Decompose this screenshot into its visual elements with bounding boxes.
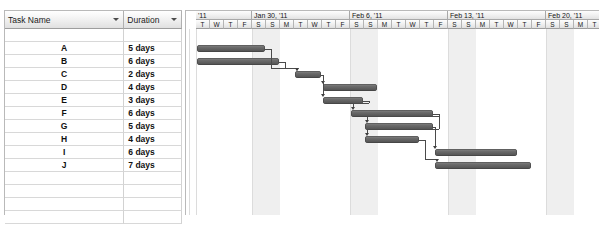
table-row[interactable]: J7 days	[5, 159, 182, 172]
cell-task-name[interactable]: H	[5, 133, 124, 146]
table-row[interactable]	[5, 198, 182, 211]
task-table: Task Name Duration A5 daysB6 daysC2 days…	[4, 10, 182, 215]
table-row[interactable]: I6 days	[5, 146, 182, 159]
timeline-day-cell: S	[560, 20, 574, 29]
timeline-day-cell: S	[350, 20, 364, 29]
cell-task-name[interactable]: D	[5, 81, 124, 94]
dependency-link	[435, 127, 436, 147]
timeline-day-cell: S	[364, 20, 378, 29]
timeline-day-cell: W	[406, 20, 420, 29]
cell-task-name[interactable]: I	[5, 146, 124, 159]
table-row[interactable]: D4 days	[5, 81, 182, 94]
cell-duration[interactable]: 5 days	[124, 120, 182, 133]
timeline-week-cell: '11	[196, 11, 252, 20]
table-row[interactable]	[5, 211, 182, 224]
gantt-bar[interactable]	[435, 149, 517, 156]
cell-duration[interactable]: 2 days	[124, 68, 182, 81]
column-header-task-name[interactable]: Task Name	[5, 11, 124, 29]
timeline-day-cell: T	[224, 20, 238, 29]
dependency-link	[439, 114, 440, 130]
gantt-bar[interactable]	[295, 71, 321, 78]
timeline-week-cell: Feb 20, '11	[546, 11, 599, 20]
cell-task-name[interactable]	[5, 211, 124, 224]
cell-task-name[interactable]: F	[5, 107, 124, 120]
cell-task-name[interactable]: A	[5, 42, 124, 55]
cell-duration[interactable]: 3 days	[124, 94, 182, 107]
dependency-arrow-icon	[295, 68, 299, 71]
table-row[interactable]	[5, 185, 182, 198]
cell-duration[interactable]	[124, 172, 182, 185]
dependency-link	[425, 140, 426, 160]
gantt-bar[interactable]	[323, 84, 377, 91]
cell-duration[interactable]: 6 days	[124, 146, 182, 159]
timeline-day-cell: T	[392, 20, 406, 29]
gantt-bar[interactable]	[197, 58, 279, 65]
weekend-band	[350, 29, 364, 215]
cell-task-name[interactable]	[5, 172, 124, 185]
timeline-day-cell: F	[336, 20, 350, 29]
timeline-day-cell: W	[210, 20, 224, 29]
timeline-day-cell: M	[476, 20, 490, 29]
timeline-day-cell: T	[294, 20, 308, 29]
table-row[interactable]	[5, 172, 182, 185]
dependency-link	[271, 49, 272, 69]
timeline-day-cell: T	[322, 20, 336, 29]
cell-task-name[interactable]	[5, 29, 124, 42]
grid-line-vertical	[448, 29, 449, 215]
cell-task-name[interactable]: J	[5, 159, 124, 172]
dependency-arrow-icon	[365, 120, 369, 123]
cell-duration[interactable]	[124, 211, 182, 224]
cell-task-name[interactable]	[5, 185, 124, 198]
dependency-link	[323, 75, 324, 95]
timeline-day-cell: M	[574, 20, 588, 29]
table-row[interactable]	[5, 29, 182, 42]
chevron-down-icon[interactable]	[169, 15, 178, 24]
cell-duration[interactable]: 6 days	[124, 55, 182, 68]
cell-duration[interactable]: 5 days	[124, 42, 182, 55]
table-row[interactable]: C2 days	[5, 68, 182, 81]
cell-duration[interactable]: 6 days	[124, 107, 182, 120]
table-row[interactable]: G5 days	[5, 120, 182, 133]
timeline-day-cell: M	[280, 20, 294, 29]
timeline-day-cell: S	[266, 20, 280, 29]
column-header-task-name-label: Task Name	[8, 15, 51, 25]
weekend-band	[266, 29, 280, 215]
cell-task-name[interactable]	[5, 198, 124, 211]
cell-duration[interactable]: 7 days	[124, 159, 182, 172]
weekend-band	[546, 29, 560, 215]
dependency-arrow-icon	[435, 159, 439, 162]
timeline-day-cell: T	[490, 20, 504, 29]
grid-line-vertical	[189, 29, 190, 215]
dependency-arrow-icon	[365, 133, 369, 136]
table-row[interactable]: F6 days	[5, 107, 182, 120]
table-row[interactable]: B6 days	[5, 55, 182, 68]
weekend-band	[462, 29, 476, 215]
column-header-duration[interactable]: Duration	[124, 11, 182, 29]
timeline-day-cell: F	[532, 20, 546, 29]
cell-duration[interactable]	[124, 185, 182, 198]
cell-duration[interactable]	[124, 29, 182, 42]
chevron-down-icon[interactable]	[111, 15, 120, 24]
dependency-link	[367, 116, 439, 117]
cell-duration[interactable]: 4 days	[124, 133, 182, 146]
dependency-link	[353, 103, 369, 104]
cell-task-name[interactable]: C	[5, 68, 124, 81]
table-row[interactable]: A5 days	[5, 42, 182, 55]
gantt-bar[interactable]	[365, 136, 419, 143]
table-row[interactable]: E3 days	[5, 94, 182, 107]
timeline-day-cell: F	[238, 20, 252, 29]
table-row[interactable]: H4 days	[5, 133, 182, 146]
dependency-link	[367, 129, 439, 130]
timeline-day-cell: F	[434, 20, 448, 29]
cell-duration[interactable]	[124, 198, 182, 211]
cell-task-name[interactable]: E	[5, 94, 124, 107]
timeline-week-cell: Feb 13, '11	[448, 11, 546, 20]
gantt-bar[interactable]	[435, 162, 531, 169]
cell-task-name[interactable]: G	[5, 120, 124, 133]
dependency-link	[369, 101, 370, 104]
table-header-row: Task Name Duration	[5, 11, 182, 29]
gantt-bar[interactable]	[197, 45, 265, 52]
weekend-band	[560, 29, 574, 215]
cell-task-name[interactable]: B	[5, 55, 124, 68]
cell-duration[interactable]: 4 days	[124, 81, 182, 94]
